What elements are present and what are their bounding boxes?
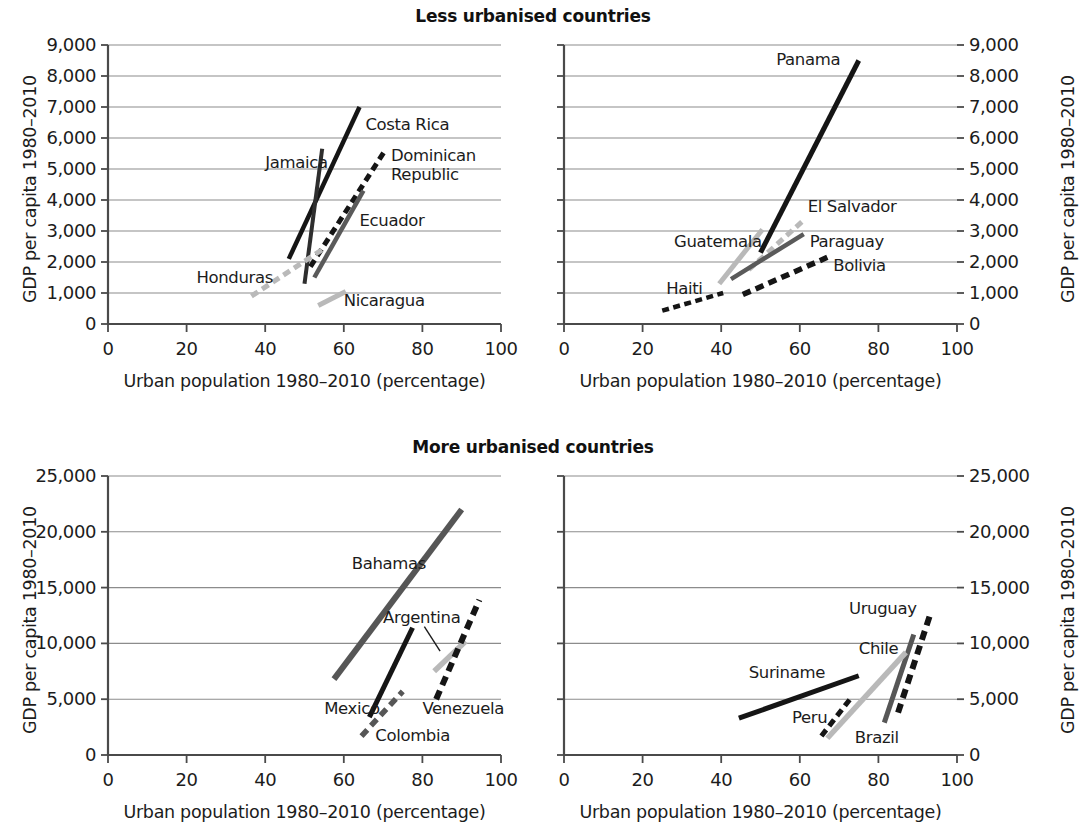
series-argentina bbox=[424, 627, 465, 672]
panel-bottom-right-ytick-0: 0 bbox=[969, 746, 1049, 764]
series-brazil bbox=[827, 652, 906, 738]
series-label-peru: Peru bbox=[792, 709, 827, 727]
panel-top-right-gridlines bbox=[564, 45, 957, 293]
panel-top-left: Costa RicaJamaicaDominican RepublicEcuad… bbox=[0, 0, 1081, 827]
panel-top-right-xtick-60: 60 bbox=[770, 340, 830, 358]
panel-top-right-ytick-7000: 7,000 bbox=[969, 98, 1049, 116]
series-el-salvador bbox=[749, 220, 804, 270]
panel-top-right-ytick-0: 0 bbox=[969, 315, 1049, 333]
series-ecuador bbox=[314, 191, 363, 278]
panel-bottom-right-ytick-20000: 20,000 bbox=[969, 523, 1049, 541]
panel-top-right-xaxis-title: Urban population 1980–2010 (percentage) bbox=[579, 371, 941, 391]
panel-bottom-left-ytick-20000: 20,000 bbox=[22, 523, 96, 541]
series-label-el-salvador: El Salvador bbox=[808, 198, 897, 216]
panel-bottom-left-xtick-0: 0 bbox=[78, 771, 138, 789]
panel-bottom-left-yaxis-title: GDP per capita 1980–2010 bbox=[20, 506, 40, 734]
panel-top-left-yaxis-title: GDP per capita 1980–2010 bbox=[20, 75, 40, 303]
panel-top-left-plot bbox=[0, 0, 1081, 827]
panel-bottom-left: BahamasArgentinaMexicoVenezuelaColombia0… bbox=[0, 0, 1081, 827]
panel-bottom-right-ytick-25000: 25,000 bbox=[969, 467, 1049, 485]
panel-top-left-xtick-40: 40 bbox=[235, 340, 295, 358]
series-label-uruguay: Uruguay bbox=[849, 600, 917, 618]
panel-top-right-xtick-0: 0 bbox=[534, 340, 594, 358]
panel-bottom-right-ytick-10000: 10,000 bbox=[969, 634, 1049, 652]
series-chile bbox=[884, 634, 913, 722]
panel-top-left-ytick-1000: 1,000 bbox=[22, 284, 96, 302]
panel-top-right-xtick-20: 20 bbox=[613, 340, 673, 358]
panel-top-left-axes bbox=[101, 45, 501, 332]
row-title-less-urbanised: Less urbanised countries bbox=[415, 6, 650, 26]
panel-top-right: PanamaEl SalvadorGuatemalaParaguayBolivi… bbox=[0, 0, 1081, 827]
panel-top-right-xtick-100: 100 bbox=[927, 340, 987, 358]
series-panama bbox=[761, 61, 859, 253]
panel-bottom-left-ytick-5000: 5,000 bbox=[22, 690, 96, 708]
panel-top-left-xaxis-title: Urban population 1980–2010 (percentage) bbox=[123, 371, 485, 391]
series-mexico bbox=[369, 628, 412, 717]
panel-bottom-right-plot bbox=[0, 0, 1081, 827]
panel-top-right-plot bbox=[0, 0, 1081, 827]
panel-top-right-yaxis-title: GDP per capita 1980–2010 bbox=[1058, 75, 1078, 303]
panel-bottom-left-xtick-100: 100 bbox=[471, 771, 531, 789]
series-label-panama: Panama bbox=[776, 51, 840, 69]
panel-bottom-left-ytick-25000: 25,000 bbox=[22, 467, 96, 485]
series-label-dominican-republic: Dominican Republic bbox=[391, 147, 487, 184]
series-honduras bbox=[251, 250, 322, 297]
panel-bottom-left-xtick-40: 40 bbox=[235, 771, 295, 789]
series-label-brazil: Brazil bbox=[855, 729, 899, 747]
panel-top-right-ytick-1000: 1,000 bbox=[969, 284, 1049, 302]
panel-top-left-ytick-7000: 7,000 bbox=[22, 98, 96, 116]
series-paraguay bbox=[731, 234, 804, 279]
panel-top-left-ytick-4000: 4,000 bbox=[22, 191, 96, 209]
panel-top-left-ytick-2000: 2,000 bbox=[22, 253, 96, 271]
series-label-honduras: Honduras bbox=[196, 269, 273, 287]
panel-top-left-ytick-9000: 9,000 bbox=[22, 36, 96, 54]
panel-bottom-left-xtick-80: 80 bbox=[392, 771, 452, 789]
panel-top-left-xtick-80: 80 bbox=[392, 340, 452, 358]
series-label-nicaragua: Nicaragua bbox=[344, 292, 425, 310]
panel-bottom-left-xtick-20: 20 bbox=[157, 771, 217, 789]
panel-bottom-left-axes bbox=[101, 476, 501, 763]
series-label-paraguay: Paraguay bbox=[810, 233, 884, 251]
panel-top-right-ytick-4000: 4,000 bbox=[969, 191, 1049, 209]
series-label-jamaica: Jamaica bbox=[265, 154, 327, 172]
panel-top-left-xtick-60: 60 bbox=[314, 340, 374, 358]
panel-top-right-xtick-80: 80 bbox=[848, 340, 908, 358]
panel-top-left-ytick-5000: 5,000 bbox=[22, 160, 96, 178]
panel-bottom-right-xtick-20: 20 bbox=[613, 771, 673, 789]
series-label-bahamas: Bahamas bbox=[352, 555, 426, 573]
panel-bottom-left-gridlines bbox=[108, 476, 501, 699]
series-uruguay bbox=[898, 617, 929, 713]
panel-bottom-right-yaxis-title: GDP per capita 1980–2010 bbox=[1058, 506, 1078, 734]
panel-bottom-left-xaxis-title: Urban population 1980–2010 (percentage) bbox=[123, 802, 485, 822]
series-label-argentina: Argentina bbox=[383, 609, 460, 627]
series-label-bolivia: Bolivia bbox=[833, 257, 886, 275]
panel-top-right-ytick-8000: 8,000 bbox=[969, 67, 1049, 85]
series-label-chile: Chile bbox=[859, 640, 899, 658]
panel-bottom-right-xtick-80: 80 bbox=[848, 771, 908, 789]
panel-bottom-right-axes bbox=[557, 476, 964, 763]
panel-top-left-xtick-0: 0 bbox=[78, 340, 138, 358]
panel-top-left-gridlines bbox=[108, 45, 501, 293]
panel-top-right-ytick-5000: 5,000 bbox=[969, 160, 1049, 178]
series-label-venezuela: Venezuela bbox=[422, 700, 504, 718]
panel-bottom-right-xtick-0: 0 bbox=[534, 771, 594, 789]
panel-bottom-right-ytick-15000: 15,000 bbox=[969, 579, 1049, 597]
series-suriname bbox=[739, 676, 859, 718]
panel-bottom-right-xaxis-title: Urban population 1980–2010 (percentage) bbox=[579, 802, 941, 822]
figure-root: Less urbanised countriesMore urbanised c… bbox=[0, 0, 1081, 827]
panel-bottom-left-plot bbox=[0, 0, 1081, 827]
panel-top-right-ytick-3000: 3,000 bbox=[969, 222, 1049, 240]
series-bolivia bbox=[743, 257, 827, 294]
series-colombia bbox=[361, 691, 402, 736]
series-nicaragua bbox=[318, 291, 346, 305]
series-label-suriname: Suriname bbox=[749, 664, 825, 682]
panel-bottom-right-ytick-5000: 5,000 bbox=[969, 690, 1049, 708]
panel-top-right-axes bbox=[557, 45, 964, 332]
series-bahamas bbox=[334, 509, 462, 679]
panel-top-right-ytick-2000: 2,000 bbox=[969, 253, 1049, 271]
row-title-more-urbanised: More urbanised countries bbox=[412, 437, 653, 457]
panel-top-left-xtick-100: 100 bbox=[471, 340, 531, 358]
series-label-ecuador: Ecuador bbox=[360, 212, 425, 230]
panel-bottom-left-xtick-60: 60 bbox=[314, 771, 374, 789]
series-venezuela bbox=[436, 600, 479, 699]
